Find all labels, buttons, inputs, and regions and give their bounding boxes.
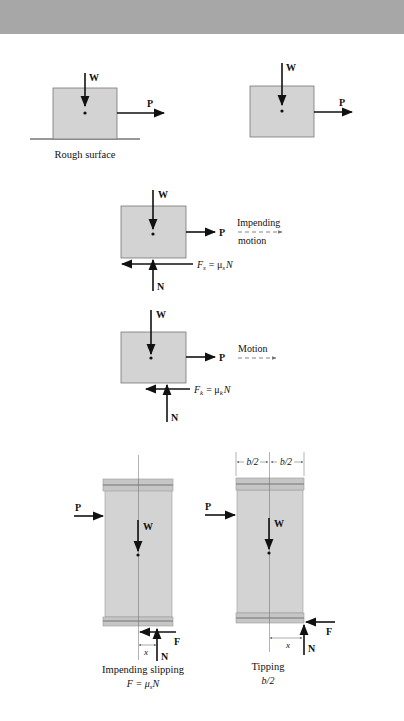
weight-label: W xyxy=(274,518,284,529)
tipping-caption: Tipping xyxy=(252,661,286,672)
slipping-caption: Impending slipping xyxy=(102,664,185,675)
friction-equation: Fs= μsN xyxy=(196,259,234,272)
normal-label: N xyxy=(161,651,169,662)
block xyxy=(121,332,186,383)
impending-label: Impending xyxy=(237,217,280,228)
push-label: P xyxy=(219,227,225,238)
panel-slipping: P W F N x Impending slipping F = μsN xyxy=(74,455,185,691)
center-of-mass-dot xyxy=(151,232,154,235)
x-label: x xyxy=(285,640,290,650)
push-label: P xyxy=(205,501,211,512)
weight-label: W xyxy=(156,309,166,320)
half-width-label-right: b/2 xyxy=(280,457,292,467)
tall-block xyxy=(237,490,303,613)
normal-label: N xyxy=(308,643,316,654)
friction-diagram: W P Rough surface W P W P Impending moti… xyxy=(0,0,404,721)
tipping-equation: b/2 xyxy=(262,675,275,686)
panel-tipping: b/2 b/2 P W F N x Tipping b/2 xyxy=(205,452,335,686)
friction-label: F xyxy=(174,636,180,647)
center-of-mass-dot xyxy=(149,356,152,359)
panel-static-fbd: W P Impending motion Fs= μsN N xyxy=(121,189,282,292)
weight-label: W xyxy=(158,189,168,200)
motion-label: motion xyxy=(238,235,266,246)
normal-label: N xyxy=(157,281,165,292)
friction-equation: Fk= μkN xyxy=(193,384,232,397)
half-width-label-left: b/2 xyxy=(246,457,258,467)
weight-label: W xyxy=(89,72,99,83)
rough-surface-caption: Rough surface xyxy=(55,149,116,160)
push-label: P xyxy=(339,97,345,108)
weight-label: W xyxy=(286,62,296,73)
center-of-mass-dot xyxy=(136,553,139,556)
friction-label: F xyxy=(326,626,332,637)
push-label: P xyxy=(219,352,225,363)
push-label: P xyxy=(147,98,153,109)
push-label: P xyxy=(75,502,81,513)
center-of-mass-dot xyxy=(280,109,283,112)
slipping-equation: F = μsN xyxy=(126,678,161,691)
center-of-mass-dot xyxy=(267,551,270,554)
motion-label: Motion xyxy=(238,343,267,354)
x-label: x xyxy=(143,647,148,657)
panel-free-block: W P xyxy=(250,62,352,137)
center-of-mass-dot xyxy=(83,111,86,114)
weight-label: W xyxy=(143,521,153,532)
normal-label: N xyxy=(171,412,179,423)
panel-kinetic-fbd: W P Motion Fk= μkN N xyxy=(121,309,276,423)
panel-rough-surface: W P Rough surface xyxy=(30,72,164,160)
